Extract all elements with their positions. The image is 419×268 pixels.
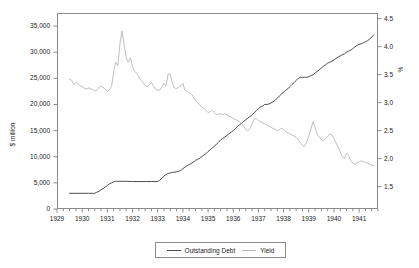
chart-container: $ million % 1929193019311932193319341935… xyxy=(0,0,419,268)
x-tick-label: 1930 xyxy=(68,215,96,222)
x-axis-ticks xyxy=(57,209,378,213)
chart-canvas xyxy=(0,0,419,268)
y-right-tick-label: 4.0 xyxy=(384,43,404,50)
x-tick-label: 1933 xyxy=(144,215,172,222)
y-right-tick-label: 2.5 xyxy=(384,127,404,134)
y-right-tick-label: 3.5 xyxy=(384,71,404,78)
legend-label: Outstanding Debt xyxy=(185,247,236,254)
x-tick-label: 1937 xyxy=(244,215,272,222)
x-tick-label: 1940 xyxy=(320,215,348,222)
legend-item[interactable]: Yield xyxy=(242,247,274,254)
y-left-tick-label: 10,000 xyxy=(17,153,50,160)
y-right-tick-label: 3.0 xyxy=(384,99,404,106)
x-tick-label: 1936 xyxy=(219,215,247,222)
data-series-group xyxy=(70,31,374,193)
chart-legend: Outstanding DebtYield xyxy=(155,242,286,258)
y-left-tick-label: 5,000 xyxy=(17,179,50,186)
y-left-tick-label: 25,000 xyxy=(17,74,50,81)
y-left-tick-label: 30,000 xyxy=(17,48,50,55)
legend-item[interactable]: Outstanding Debt xyxy=(167,247,236,254)
x-tick-label: 1931 xyxy=(93,215,121,222)
series-line-yield xyxy=(70,31,374,165)
y-axis-right-ticks xyxy=(378,19,382,187)
x-tick-label: 1939 xyxy=(295,215,323,222)
x-tick-label: 1938 xyxy=(270,215,298,222)
y-axis-left-ticks xyxy=(54,26,58,209)
legend-line-swatch xyxy=(167,250,181,251)
x-tick-label: 1934 xyxy=(169,215,197,222)
x-tick-label: 1929 xyxy=(43,215,71,222)
legend-label: Yield xyxy=(260,247,274,254)
x-tick-label: 1935 xyxy=(194,215,222,222)
y-right-tick-label: 4.5 xyxy=(384,15,404,22)
y-right-tick-label: 2.0 xyxy=(384,155,404,162)
y-left-tick-label: 15,000 xyxy=(17,127,50,134)
legend-line-swatch xyxy=(242,250,256,251)
y-right-tick-label: 1.5 xyxy=(384,183,404,190)
y-left-tick-label: 20,000 xyxy=(17,100,50,107)
x-tick-label: 1941 xyxy=(345,215,373,222)
y-left-tick-label: 0 xyxy=(17,205,50,212)
y-axis-left-title: $ million xyxy=(9,105,16,165)
y-left-tick-label: 35,000 xyxy=(17,22,50,29)
x-tick-label: 1932 xyxy=(119,215,147,222)
